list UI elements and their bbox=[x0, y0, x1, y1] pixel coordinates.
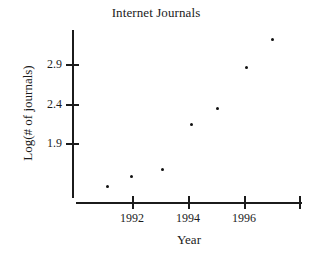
x-tick-label-1996: 1996 bbox=[222, 212, 266, 225]
y-tick-label-2.9-wrap: 2.9 bbox=[34, 58, 62, 70]
data-point-1993 bbox=[161, 168, 164, 171]
y-tick-mark-2.4 bbox=[66, 104, 79, 106]
data-point-1992 bbox=[130, 175, 133, 178]
x-tick-mark-1994 bbox=[188, 196, 190, 209]
y-tick-mark-1.9 bbox=[66, 143, 79, 145]
y-axis-label: Log(# of journals) bbox=[20, 28, 36, 198]
y-tick-label-2.4-wrap: 2.4 bbox=[34, 98, 62, 110]
y-tick-label-1.9: 1.9 bbox=[36, 137, 62, 149]
x-tick-label-1992: 1992 bbox=[110, 212, 154, 225]
data-point-1997 bbox=[271, 38, 274, 41]
data-point-1991 bbox=[106, 185, 109, 188]
x-axis-label: Year bbox=[76, 232, 302, 248]
data-point-1996 bbox=[245, 66, 248, 69]
y-tick-mark-2.9 bbox=[66, 64, 79, 66]
x-tick-mark-1998 bbox=[299, 196, 301, 209]
y-axis-line bbox=[72, 30, 74, 198]
data-point-1995 bbox=[216, 107, 219, 110]
plot-area: 2.9 2.4 1.9 1992 1994 1996 bbox=[0, 0, 312, 261]
chart-figure: Internet Journals 2.9 2.4 1.9 1992 1994 … bbox=[0, 0, 312, 261]
x-tick-mark-1992 bbox=[132, 196, 134, 209]
x-tick-mark-1996 bbox=[244, 196, 246, 209]
y-tick-label-1.9-wrap: 1.9 bbox=[34, 137, 62, 149]
data-point-1994 bbox=[190, 123, 193, 126]
y-tick-label-2.4: 2.4 bbox=[36, 98, 62, 110]
y-tick-label-2.9: 2.9 bbox=[36, 58, 62, 70]
x-tick-label-1994: 1994 bbox=[166, 212, 210, 225]
